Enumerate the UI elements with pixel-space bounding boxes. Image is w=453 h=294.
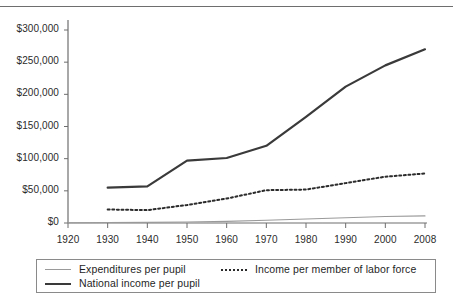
chart-legend: Expenditures per pupil National income p… <box>36 259 436 293</box>
y-axis-tick-label: $250,000 <box>0 55 59 66</box>
y-axis-tick-label: $0 <box>0 216 59 227</box>
thick-line-swatch-icon <box>45 278 71 288</box>
legend-item-labor-income: Income per member of labor force <box>221 263 416 275</box>
series-line <box>108 173 425 210</box>
thin-line-swatch-icon <box>45 264 71 274</box>
legend-item-expenditures: Expenditures per pupil <box>45 263 186 275</box>
axes-group <box>68 20 427 223</box>
chart-svg <box>0 10 453 256</box>
top-divider-rule <box>0 6 453 7</box>
legend-item-national-income: National income per pupil <box>45 277 200 289</box>
legend-label-labor-income: Income per member of labor force <box>255 263 416 275</box>
y-axis-tick-label: $150,000 <box>0 120 59 131</box>
data-series-group <box>68 49 425 222</box>
y-axis-tick-label: $50,000 <box>0 184 59 195</box>
x-axis-tick-label: 2008 <box>401 234 449 245</box>
legend-label-national-income: National income per pupil <box>79 277 200 289</box>
figure: $0$50,000$100,000$150,000$200,000$250,00… <box>0 0 453 294</box>
plot-area: $0$50,000$100,000$150,000$200,000$250,00… <box>0 10 453 256</box>
y-axis-tick-label: $100,000 <box>0 152 59 163</box>
x-tick-marks <box>68 223 425 228</box>
dotted-line-swatch-icon <box>221 264 247 274</box>
y-axis-tick-label: $300,000 <box>0 23 59 34</box>
y-axis-tick-label: $200,000 <box>0 87 59 98</box>
series-line <box>68 216 425 223</box>
series-line <box>108 49 425 187</box>
legend-label-expenditures: Expenditures per pupil <box>79 263 186 275</box>
